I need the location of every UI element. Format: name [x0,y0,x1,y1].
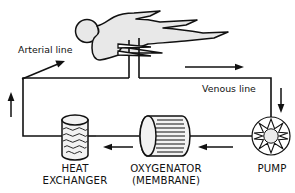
diagram-canvas: Arterial line Venous line HEAT EXCHANGER… [0,0,295,193]
heat-exchanger [62,115,88,160]
heat-exchanger-label-line2: EXCHANGER [43,175,108,186]
arrow-down-to-pump-icon [278,88,285,113]
heat-exchanger-label-line1: HEAT [61,163,89,174]
arrow-arterial-to-patient-icon [22,61,65,79]
arterial-line-label: Arterial line [18,44,73,55]
oxygenator-end-cap [140,116,156,156]
heat-exchanger-top [62,115,88,125]
arrow-heat-exchanger-up-icon [8,92,15,117]
oxygenator [140,116,190,156]
ecmo-circuit-diagram: Arterial line Venous line HEAT EXCHANGER… [0,0,295,193]
pump-hub [264,129,278,143]
pump [252,117,290,155]
arrow-oxygenator-to-heat-exchanger-icon [103,144,133,151]
patient-figure [76,11,229,60]
oxygenator-label-line2: (MEMBRANE) [132,175,200,186]
arrow-pump-to-oxygenator-icon [198,144,233,151]
venous-line-label: Venous line [202,83,256,94]
oxygenator-label-line1: OXYGENATOR [130,163,202,174]
arrow-venous-right-icon [185,64,244,71]
pump-label: PUMP [257,163,286,174]
